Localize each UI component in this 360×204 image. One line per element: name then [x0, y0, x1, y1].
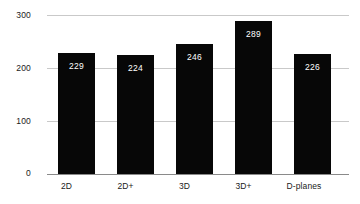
plot-area: 300 200 100 0 229 224 246 289 — [47, 15, 349, 174]
bars-layer: 229 224 246 289 226 — [47, 15, 349, 174]
xtick-label-3d: 3D — [166, 181, 203, 191]
ytick-label-0: 0 — [0, 168, 31, 178]
bar-3dplus[interactable]: 289 — [235, 21, 272, 174]
bar-3d[interactable]: 246 — [176, 44, 213, 174]
ytick-label-200: 200 — [0, 63, 31, 73]
ytick-label-100: 100 — [0, 116, 31, 126]
bar-2d[interactable]: 229 — [58, 53, 95, 174]
xtick-label-dplanes: D-planes — [278, 181, 330, 191]
bar-value-2d: 229 — [58, 61, 95, 71]
bar-value-3d: 246 — [176, 52, 213, 62]
bar-chart: 300 200 100 0 229 224 246 289 — [0, 0, 360, 204]
bar-value-dplanes: 226 — [294, 62, 331, 72]
bar-value-3dplus: 289 — [235, 29, 272, 39]
xtick-label-2dplus: 2D+ — [107, 181, 144, 191]
ytick-label-300: 300 — [0, 10, 31, 20]
bar-value-2dplus: 224 — [117, 63, 154, 73]
bar-dplanes[interactable]: 226 — [294, 54, 331, 174]
xtick-label-3dplus: 3D+ — [225, 181, 262, 191]
xtick-label-2d: 2D — [48, 181, 85, 191]
bar-2dplus[interactable]: 224 — [117, 55, 154, 174]
